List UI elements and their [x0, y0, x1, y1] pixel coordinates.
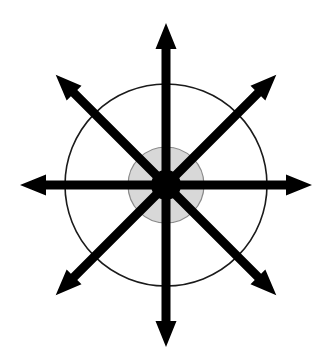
figure-page: ggyy [0, 0, 328, 351]
radial-arrow-diagram [0, 0, 328, 351]
center-hub [151, 170, 181, 200]
